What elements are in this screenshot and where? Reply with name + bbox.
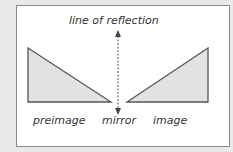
preimage-triangle [28, 48, 111, 102]
preimage-label: preimage [33, 114, 86, 127]
line-of-reflection-label: line of reflection [69, 14, 159, 27]
arrow-up-icon [115, 30, 121, 37]
image-label: image [153, 114, 187, 127]
mirror-label: mirror [102, 114, 136, 127]
image-triangle [127, 48, 208, 102]
